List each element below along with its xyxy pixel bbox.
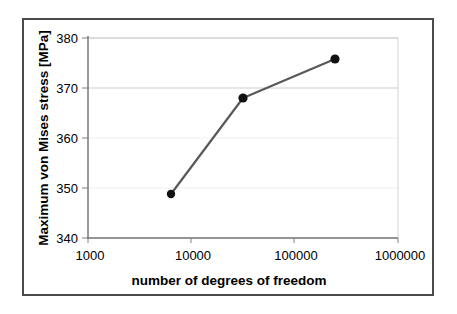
x-axis-ticks [88,238,398,243]
y-tick-labels: 380 370 360 350 340 [56,31,78,246]
x-tick-label-1000000: 1000000 [375,248,426,263]
von-mises-convergence-chart: 380 370 360 350 340 1000 10000 100000 10… [0,0,457,314]
x-tick-labels: 1000 10000 100000 1000000 [76,248,426,263]
x-tick-label-100000: 100000 [274,248,317,263]
x-axis-title: number of degrees of freedom [131,273,326,288]
data-point-2 [238,93,247,102]
y-tick-label-370: 370 [56,81,78,96]
figure-canvas: 380 370 360 350 340 1000 10000 100000 10… [0,0,457,314]
y-axis-title: Maximum von Mises stress [MPa] [36,30,51,245]
y-tick-label-340: 340 [56,231,78,246]
data-point-3 [330,54,339,63]
y-tick-label-360: 360 [56,131,78,146]
x-tick-label-10000: 10000 [175,248,211,263]
y-tick-label-380: 380 [56,31,78,46]
y-axis-ticks [82,38,88,238]
data-point-1 [167,190,175,198]
y-tick-label-350: 350 [56,181,78,196]
x-tick-label-1000: 1000 [76,248,105,263]
